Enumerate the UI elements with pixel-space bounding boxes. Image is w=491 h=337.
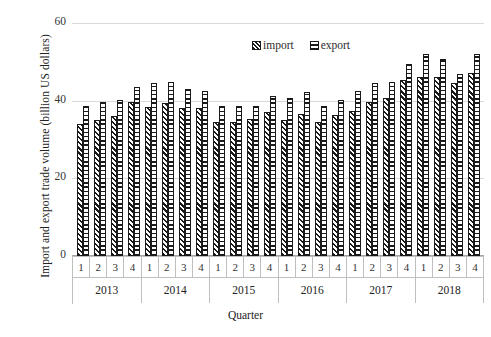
quarter-tick-label: 4 [330, 257, 347, 277]
bar-group [244, 23, 261, 256]
bar-group [91, 23, 108, 256]
bar-export[interactable] [185, 89, 191, 256]
bar-group [431, 23, 448, 256]
year-tick-label: 2016 [279, 278, 348, 303]
quarter-tick-label: 2 [364, 257, 381, 277]
quarter-tick-label: 3 [450, 257, 467, 277]
bar-group [125, 23, 142, 256]
y-axis-tick-label: 40 [26, 93, 66, 105]
bar-group [465, 23, 482, 256]
bar-export[interactable] [202, 91, 208, 256]
bar-group [346, 23, 363, 256]
legend-label: export [321, 39, 350, 51]
bar-export[interactable] [219, 106, 225, 256]
quarter-tick-label: 2 [227, 257, 244, 277]
x-axis: 123412341234123412341234 201320142015201… [72, 256, 484, 304]
bar-series-group [72, 23, 484, 256]
quarter-tick-label: 2 [90, 257, 107, 277]
bar-export[interactable] [389, 82, 395, 256]
bar-group [329, 23, 346, 256]
quarter-tick-label: 1 [210, 257, 227, 277]
bar-export[interactable] [83, 106, 89, 256]
bar-export[interactable] [406, 64, 412, 256]
quarter-tick-label: 2 [296, 257, 313, 277]
bar-group [74, 23, 91, 256]
quarter-tick-label: 4 [398, 257, 415, 277]
chart-container: Import and export trade volume (billion … [0, 0, 491, 337]
bar-group [108, 23, 125, 256]
legend-swatch-icon [310, 41, 319, 50]
bar-group [261, 23, 278, 256]
quarter-tick-label: 3 [244, 257, 261, 277]
quarter-tick-label: 1 [347, 257, 364, 277]
bar-export[interactable] [134, 87, 140, 256]
bar-group [142, 23, 159, 256]
bar-export[interactable] [457, 74, 463, 256]
bar-group [380, 23, 397, 256]
bar-export[interactable] [321, 106, 327, 256]
y-axis-tick-label: 0 [26, 248, 66, 260]
bar-export[interactable] [474, 54, 480, 256]
bar-export[interactable] [270, 96, 276, 256]
bar-export[interactable] [423, 54, 429, 256]
quarter-tick-label: 1 [73, 257, 90, 277]
bar-group [312, 23, 329, 256]
quarter-tick-label: 3 [313, 257, 330, 277]
bar-group [397, 23, 414, 256]
quarter-tick-label: 2 [433, 257, 450, 277]
bar-group [193, 23, 210, 256]
year-tick-label: 2013 [73, 278, 142, 303]
year-tick-row: 201320142015201620172018 [73, 278, 484, 303]
bar-export[interactable] [338, 100, 344, 256]
bar-export[interactable] [236, 106, 242, 256]
bar-export[interactable] [151, 83, 157, 256]
quarter-tick-label: 4 [193, 257, 210, 277]
quarter-tick-label: 4 [124, 257, 141, 277]
bar-group [176, 23, 193, 256]
legend-entry-import[interactable]: import [252, 39, 294, 51]
year-tick-label: 2018 [416, 278, 485, 303]
y-axis-tick-label: 20 [26, 170, 66, 182]
y-axis-title: Import and export trade volume (billion … [39, 31, 51, 281]
bar-group [210, 23, 227, 256]
bar-export[interactable] [253, 106, 259, 256]
legend-label: import [263, 39, 294, 51]
quarter-tick-label: 1 [142, 257, 159, 277]
bar-export[interactable] [168, 82, 174, 256]
y-axis-tick-label: 60 [26, 15, 66, 27]
quarter-tick-row: 123412341234123412341234 [73, 256, 484, 278]
x-axis-title: Quarter [0, 309, 491, 321]
bar-group [414, 23, 431, 256]
bar-group [227, 23, 244, 256]
quarter-tick-label: 1 [279, 257, 296, 277]
bar-group [295, 23, 312, 256]
quarter-tick-label: 1 [416, 257, 433, 277]
year-tick-label: 2015 [210, 278, 279, 303]
quarter-tick-label: 2 [159, 257, 176, 277]
quarter-tick-label: 4 [261, 257, 278, 277]
year-tick-label: 2017 [347, 278, 416, 303]
legend-entry-export[interactable]: export [310, 39, 350, 51]
bar-export[interactable] [100, 102, 106, 256]
quarter-tick-label: 3 [381, 257, 398, 277]
chart-legend: importexport [252, 39, 350, 51]
legend-swatch-icon [252, 41, 261, 50]
bar-export[interactable] [372, 83, 378, 256]
bar-export[interactable] [287, 98, 293, 256]
bar-export[interactable] [355, 91, 361, 256]
bar-export[interactable] [304, 92, 310, 256]
bar-export[interactable] [440, 59, 446, 256]
plot-area [72, 23, 484, 256]
bar-group [448, 23, 465, 256]
bar-export[interactable] [117, 100, 123, 256]
quarter-tick-label: 3 [107, 257, 124, 277]
bar-group [159, 23, 176, 256]
quarter-tick-label: 3 [176, 257, 193, 277]
bar-group [363, 23, 380, 256]
quarter-tick-label: 4 [467, 257, 484, 277]
bar-group [278, 23, 295, 256]
year-tick-label: 2014 [142, 278, 211, 303]
